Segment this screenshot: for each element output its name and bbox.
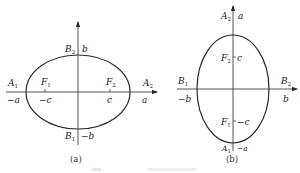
label-a2-b: A2 [220,11,231,22]
coord-a-a: a [142,95,147,105]
coord-c-b: c [237,53,242,63]
label-b2-b: B2 [280,76,291,87]
coord-neg-c-a: −c [39,95,52,105]
coord-neg-a-a: −a [7,95,20,105]
label-f2-b: F2 [220,53,231,64]
label-b1-b: B1 [177,76,188,87]
label-a1-a: A1 [7,78,18,89]
coord-neg-b-a: −b [81,131,95,141]
label-a1-b: A1 [221,144,231,154]
coord-b-b: b [283,94,289,104]
coord-neg-c-b: −c [237,117,250,127]
figure-a: A1 −a A2 a F1 −c F2 c B2 b B1 −b (a) [6,22,157,164]
label-f1-a: F1 [40,77,51,88]
ellipse-diagram: A1 −a A2 a F1 −c F2 c B2 b B1 −b (a) A2 … [0,0,300,173]
caption-a: (a) [70,154,82,164]
figure-b: A2 a F2 c B1 −b B2 b F1 −c A1 −a (b) [177,6,297,164]
coord-neg-a-b: −a [237,144,248,153]
caption-smudge [92,168,101,171]
label-b1-a: B1 [64,131,75,142]
coord-b-a: b [82,44,88,54]
caption-smudge [147,168,197,171]
caption-b: (b) [226,154,238,164]
label-f1-b: F1 [220,117,231,128]
coord-neg-b-b: −b [178,94,192,104]
label-f2-a: F2 [105,77,116,88]
coord-c-a: c [107,95,112,105]
coord-a-b: a [238,11,243,21]
label-a2-a: A2 [142,78,153,89]
label-b2-a: B2 [64,44,75,55]
